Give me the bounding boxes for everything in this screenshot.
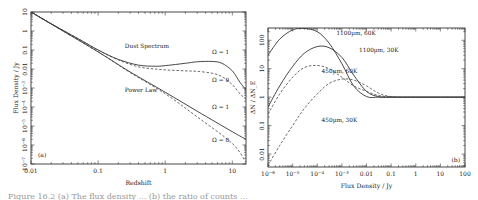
- x-axis-label: Redshift: [125, 179, 152, 186]
- curve-annotation: 1100µm, 60K: [336, 30, 376, 37]
- tick-label: 10: [258, 65, 265, 73]
- chart-canvas: 0.010.111010−710−610−510−410−30.010.1110…: [0, 0, 478, 200]
- tick-label: 10−6: [261, 170, 275, 178]
- curve-annotation: Ω = 1: [212, 104, 229, 110]
- tick-label: 1: [414, 170, 418, 177]
- tick-label: 100: [258, 34, 265, 46]
- curve-annotation: 450µm, 60K: [322, 68, 358, 75]
- curve-annotation: Ω = 0: [212, 137, 229, 143]
- tick-label: 0.1: [258, 121, 265, 131]
- tick-label: 100: [459, 170, 471, 177]
- tick-label: 10−3: [335, 170, 349, 178]
- tick-label: 0.01: [21, 62, 28, 75]
- tick-label: 10−5: [286, 170, 300, 178]
- series-line: [268, 28, 465, 97]
- figure-caption: Figure 16.2 (a) The flux density ... (b)…: [8, 192, 478, 200]
- tick-label: 1: [163, 167, 167, 174]
- tick-label: 10−4: [310, 170, 324, 178]
- panel-a-redshift-plot: 0.010.111010−710−610−510−410−30.010.1110…: [12, 8, 246, 186]
- tick-label: 10−3: [21, 81, 29, 95]
- tick-label: 10−7: [21, 157, 29, 171]
- curve-annotation: Ω = 1: [212, 49, 229, 55]
- curve-annotation: 450µm, 30K: [322, 117, 358, 124]
- y-axis-label: ΔN / ΔN_E: [249, 80, 257, 114]
- tick-label: 10: [21, 8, 28, 16]
- figure: 0.010.111010−710−610−510−410−30.010.1110…: [0, 0, 478, 200]
- curve-annotation: Power Law: [125, 87, 157, 93]
- panel-b-counts-ratio-plot: 10−610−510−410−30.010.11101000.010.11101…: [249, 28, 471, 190]
- panel-label: (a): [38, 151, 46, 158]
- series-line: [268, 46, 465, 107]
- curve-annotation: Ω = 0: [212, 77, 229, 83]
- series-line: [31, 12, 246, 139]
- tick-label: 0.1: [93, 167, 103, 174]
- curve-annotation: Dust Spectrum: [125, 43, 170, 50]
- tick-label: 10−5: [21, 119, 29, 133]
- series-line: [268, 65, 465, 114]
- tick-label: 0.01: [360, 170, 373, 177]
- panel-label: (b): [451, 156, 460, 163]
- tick-label: 1: [258, 95, 265, 99]
- y-axis-label: Flux Density / Jy: [12, 62, 20, 114]
- x-axis-label: Flux Density / Jy: [341, 182, 393, 190]
- tick-label: 0.1: [21, 45, 28, 55]
- curve-annotation: 1100µm, 30K: [359, 47, 399, 54]
- tick-label: 0.1: [386, 170, 396, 177]
- tick-label: 0.01: [258, 147, 265, 160]
- tick-label: 1: [21, 29, 28, 33]
- tick-label: 10: [228, 167, 236, 174]
- tick-label: 10−4: [21, 100, 29, 114]
- tick-label: 10: [437, 170, 445, 177]
- tick-label: 10−6: [21, 138, 29, 152]
